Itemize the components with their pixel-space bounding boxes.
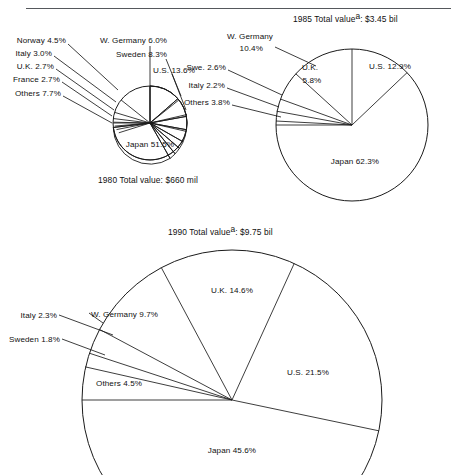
label-1985-uk-line2: 5.8%: [303, 76, 322, 85]
pie-1990-boundary-wgermany: [100, 329, 233, 400]
label-1980-sweden: Sweden 8.3%: [116, 50, 167, 59]
label-1985-uk-line1: U.K.: [302, 63, 318, 72]
pie-1990-boundary-us-lower: [232, 400, 379, 431]
label-1990-uk: U.K. 14.6%: [211, 286, 253, 295]
label-1985-swe: Swe. 2.6%: [186, 63, 226, 72]
label-1980-uk: U.K. 2.7%: [17, 62, 54, 71]
leader-france: [62, 82, 112, 116]
leader-italy: [54, 56, 116, 102]
pie-chart-1980: Norway 4.5% Italy 3.0% U.K. 2.7% France …: [0, 30, 230, 195]
label-1980-japan: Japan 51.5%: [126, 140, 174, 149]
pie-1990-boundary-uk-right: [232, 264, 294, 401]
label-1980-others: Others 7.7%: [15, 89, 61, 98]
label-1985-wgermany-line1: W. Germany: [227, 32, 274, 41]
title-1985-value: : $3.45 bil: [360, 14, 397, 24]
label-1980-wgermany: W. Germany 6.0%: [100, 36, 167, 45]
title-1990-prefix: 1990 Total value: [168, 227, 231, 237]
label-1990-us: U.S. 21.5%: [287, 368, 329, 377]
label-1985-us: U.S. 12.9%: [369, 62, 411, 71]
clipped-figure-caption: [26, 0, 446, 3]
pie-1985-boundary-uk: [281, 99, 352, 125]
label-1990-others: Others 4.5%: [96, 379, 142, 388]
label-1990-sweden: Sweden 1.8%: [9, 335, 60, 344]
pie-chart-1985: W. Germany 10.4% Swe. 2.6% Italy 2.2% Ot…: [215, 12, 457, 212]
leader-others: [63, 96, 112, 123]
label-1990-italy: Italy 2.3%: [20, 311, 57, 320]
leader-1990-sweden: [62, 339, 105, 355]
figure-container: Norway 4.5% Italy 3.0% U.K. 2.7% France …: [0, 0, 457, 475]
pie-1990-leader-lines: [59, 313, 113, 355]
leader-1985-italy: [227, 88, 279, 107]
title-1990: 1990 Total valuea: $9.75 bil: [168, 224, 273, 237]
label-1980-norway: Norway 4.5%: [17, 36, 66, 45]
label-1980-italy: Italy 3.0%: [15, 49, 52, 58]
title-1985: 1985 Total valuea: $3.45 bil: [293, 11, 398, 24]
pie-1985-boundary-us: [352, 73, 407, 125]
title-1980: 1980 Total value: $660 mil: [98, 175, 198, 185]
label-1985-italy: Italy 2.2%: [188, 81, 225, 90]
label-1985-others: Others 3.8%: [184, 98, 230, 107]
pie-chart-1990: Italy 2.3% Sweden 1.8% W. Germany 9.7% O…: [0, 225, 457, 475]
title-1985-prefix: 1985 Total value: [293, 14, 356, 24]
pie-1985-slice-lines: [276, 49, 407, 125]
pie-1990-outline: [82, 250, 382, 475]
label-1980-france: France 2.7%: [13, 75, 60, 84]
leader-1985-others: [232, 105, 281, 117]
label-1985-wgermany-line2: 10.4%: [240, 44, 263, 53]
horizontal-rule: [26, 8, 451, 9]
label-1990-wgermany: W. Germany 9.7%: [91, 310, 158, 319]
label-1985-japan: Japan 62.3%: [331, 157, 379, 166]
label-1990-japan: Japan 45.6%: [208, 446, 256, 455]
title-1990-value: : $9.75 bil: [235, 227, 272, 237]
leader-uk: [56, 69, 114, 110]
